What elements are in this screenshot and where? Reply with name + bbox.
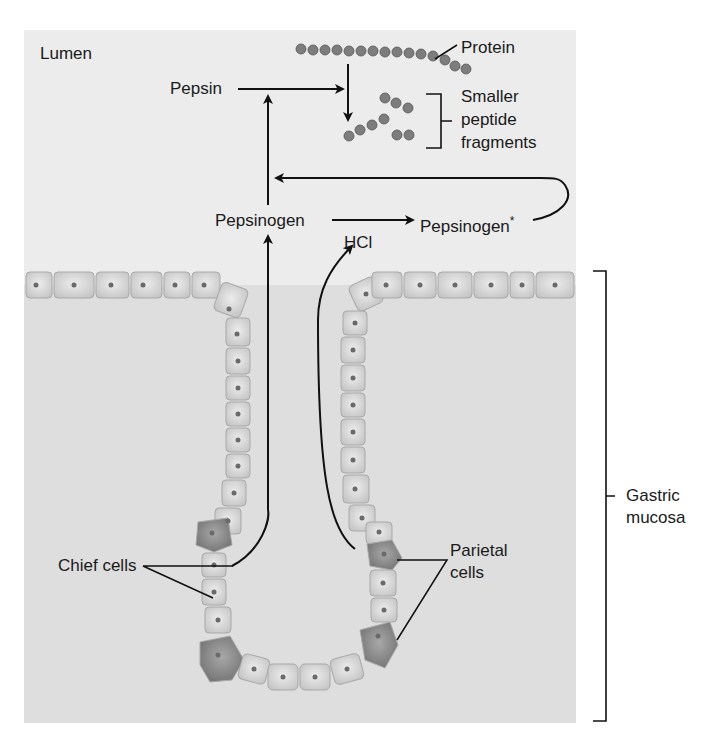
asterisk: * (510, 214, 515, 228)
parietal-cell (200, 636, 244, 682)
protein-label: Protein (461, 38, 515, 58)
parietal-cells-label-line2: cells (450, 563, 484, 583)
peptide-fragments (344, 93, 414, 141)
gastric-mucosa-bracket (593, 271, 615, 721)
surface-epithelium-right (347, 272, 574, 313)
surface-epithelium-left (26, 272, 249, 319)
parietal-cell (196, 518, 232, 552)
fragments-label-line1: Smaller (461, 87, 519, 107)
pepsin-label: Pepsin (170, 79, 222, 99)
gastric-pit-left-wall (196, 318, 250, 633)
active-pepsinogen-label: Pepsinogen* (420, 211, 514, 237)
pepsinogen-label: Pepsinogen (215, 211, 305, 231)
fragments-bracket (426, 94, 452, 148)
parietal-cells-leader-lines (397, 560, 447, 640)
gastric-mucosa-label-line2: mucosa (626, 508, 686, 528)
gastric-mucosa-label-line1: Gastric (626, 486, 680, 506)
protein-chain (296, 44, 471, 74)
lumen-label: Lumen (40, 44, 92, 64)
gastric-pit-right-wall (341, 311, 402, 622)
fragments-label-line2: peptide (461, 110, 517, 130)
diagram-art (0, 0, 721, 744)
parietal-cells-label-line1: Parietal (450, 541, 508, 561)
cell-nuclei (34, 283, 558, 680)
hcl-label: HCl (344, 233, 372, 253)
chief-cells-label: Chief cells (58, 556, 136, 576)
parietal-cell (360, 622, 398, 668)
fragments-label-line3: fragments (461, 133, 537, 153)
